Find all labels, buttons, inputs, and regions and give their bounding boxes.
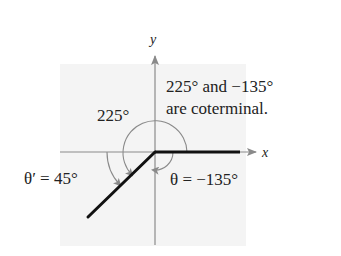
coterminal-note-line2: are coterminal. [166, 99, 268, 118]
coterminal-note-line1: 225° and −135° [166, 77, 273, 96]
angle-225-label: 225° [97, 106, 129, 125]
coterminal-angle-diagram: x y 225° 225° and −135° are coterminal. … [0, 0, 341, 256]
theta-label: θ = −135° [170, 170, 238, 189]
x-axis-label: x [261, 145, 269, 160]
reference-angle-label: θ′ = 45° [24, 169, 78, 188]
diagram-canvas: x y 225° 225° and −135° are coterminal. … [0, 0, 341, 256]
y-axis-label: y [148, 32, 157, 47]
